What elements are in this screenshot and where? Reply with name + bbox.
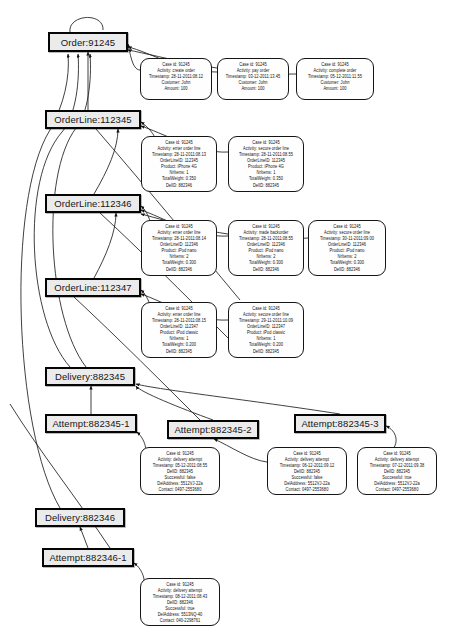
graph-edge — [94, 129, 118, 194]
event-attribute: DelID: 882345 — [232, 182, 300, 189]
event-attribute: Amount: 100 — [300, 86, 370, 93]
entity-node-order-91245[interactable]: Order:91245 — [48, 32, 128, 52]
graph-edge — [136, 386, 213, 420]
entity-node-label: Order:91245 — [61, 37, 115, 48]
event-box-ev-attempt-882345-2[interactable]: Case id: 91245Activity: delivery attempt… — [267, 447, 347, 495]
event-attribute: DelID: 882346 — [145, 266, 213, 273]
event-box-ev-secure-line-112347[interactable]: Case id: 91245Activity: secure order lin… — [228, 302, 304, 358]
graph-edge — [214, 439, 267, 462]
event-attribute: DelID: 882345 — [232, 348, 300, 355]
event-box-ev-enter-line-112345[interactable]: Case id: 91245Activity: enter order line… — [141, 136, 217, 192]
entity-node-attempt-882346-1[interactable]: Attempt:882346-1 — [42, 548, 134, 567]
diagram-canvas: Order:91245OrderLine:112345OrderLine:112… — [0, 0, 468, 644]
event-box-ev-attempt-882346-1[interactable]: Case id: 91245Activity: delivery attempt… — [140, 578, 220, 626]
graph-edge — [70, 17, 103, 32]
entity-node-delivery-882345[interactable]: Delivery:882345 — [45, 367, 135, 386]
entity-node-label: OrderLine:112345 — [54, 114, 131, 125]
event-attribute: Contact: 040-2298761 — [144, 618, 216, 625]
graph-edge — [128, 44, 140, 70]
entity-node-attempt-882345-3[interactable]: Attempt:882345-3 — [294, 414, 386, 433]
event-box-ev-secure-line-112345[interactable]: Case id: 91245Activity: secure order lin… — [228, 136, 304, 192]
entity-node-label: Delivery:882346 — [45, 512, 115, 523]
event-box-ev-enter-line-112347[interactable]: Case id: 91245Activity: enter order line… — [141, 302, 217, 358]
event-attribute: Contact: 0497-2553680 — [271, 487, 343, 494]
entity-node-orderline-112346[interactable]: OrderLine:112346 — [45, 194, 141, 213]
entity-node-label: Delivery:882345 — [55, 371, 125, 382]
event-box-ev-attempt-882345-1[interactable]: Case id: 91245Activity: delivery attempt… — [140, 447, 220, 495]
event-attribute: DelID: 882346 — [232, 266, 300, 273]
entity-node-label: OrderLine:112347 — [54, 282, 131, 293]
event-attribute: DelID: 882346 — [312, 266, 382, 273]
event-attribute: Contact: 0497-2553680 — [144, 487, 216, 494]
entity-node-label: OrderLine:112346 — [54, 198, 131, 209]
event-attribute: DelID: 882345 — [145, 348, 213, 355]
entity-node-label: Attempt:882346-1 — [49, 552, 126, 563]
event-attribute: DelID: 882346 — [145, 182, 213, 189]
event-box-ev-backorder-112346[interactable]: Case id: 91245Activity: made backorderTi… — [228, 220, 304, 276]
entity-node-attempt-882345-1[interactable]: Attempt:882345-1 — [45, 414, 137, 433]
event-box-ev-secure-line-112346[interactable]: Case id: 91245Activity: secure order lin… — [308, 220, 386, 276]
graph-edge — [136, 384, 340, 414]
entity-node-attempt-882345-2[interactable]: Attempt:882345-2 — [167, 420, 259, 439]
event-box-ev-pay-order[interactable]: Case id: 91245Activity: pay orderTimesta… — [217, 58, 289, 100]
entity-node-label: Attempt:882345-3 — [301, 418, 378, 429]
event-attribute: Contact: 0497-2553680 — [361, 487, 433, 494]
graph-edge — [80, 527, 88, 548]
entity-node-delivery-882346[interactable]: Delivery:882346 — [35, 508, 125, 527]
event-box-ev-complete-order[interactable]: Case id: 91245Activity: complete orderTi… — [296, 58, 374, 100]
event-box-ev-enter-line-112346[interactable]: Case id: 91245Activity: enter order line… — [141, 220, 217, 276]
graph-edge — [94, 213, 116, 278]
event-box-ev-create-order[interactable]: Case id: 91245Activity: create orderTime… — [140, 58, 212, 100]
entity-node-orderline-112347[interactable]: OrderLine:112347 — [45, 278, 141, 297]
event-box-ev-attempt-882345-3[interactable]: Case id: 91245Activity: delivery attempt… — [357, 447, 437, 495]
entity-node-label: Attempt:882345-2 — [174, 424, 251, 435]
entity-node-orderline-112345[interactable]: OrderLine:112345 — [45, 110, 141, 129]
event-attribute: Amount: 100 — [221, 86, 285, 93]
entity-node-label: Attempt:882345-1 — [52, 418, 129, 429]
event-attribute: Amount: 100 — [144, 86, 208, 93]
